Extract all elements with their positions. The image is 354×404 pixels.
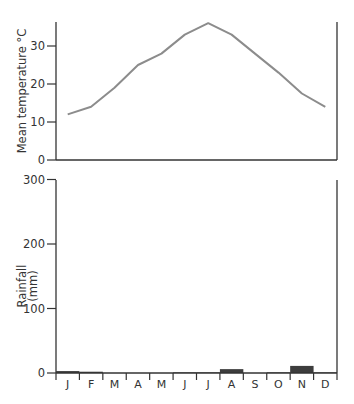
rain-tick-label: 0 bbox=[38, 366, 45, 380]
rain-tick-label: 300 bbox=[23, 173, 45, 187]
month-label: M bbox=[157, 378, 167, 391]
temp-axis-title: Mean temperature °C bbox=[15, 29, 29, 154]
rain-tick-label: 200 bbox=[23, 237, 45, 251]
temperature-chart: 0102030 Mean temperature °C bbox=[15, 22, 337, 167]
month-label: S bbox=[252, 378, 259, 391]
month-label: J bbox=[182, 378, 186, 391]
month-label: J bbox=[206, 378, 210, 391]
month-label: A bbox=[228, 378, 236, 391]
rainfall-bars bbox=[56, 366, 337, 373]
month-label: N bbox=[298, 378, 306, 391]
month-axis: JFMAMJJASOND bbox=[56, 373, 337, 391]
month-label: M bbox=[110, 378, 120, 391]
temp-tick-label: 30 bbox=[30, 39, 45, 53]
climate-chart: 0102030 Mean temperature °C 0100200300 J… bbox=[0, 0, 354, 404]
month-label: J bbox=[65, 378, 69, 391]
month-label: D bbox=[321, 378, 329, 391]
temp-tick-label: 20 bbox=[30, 77, 45, 91]
rainfall-chart: 0100200300 JFMAMJJASOND Rainfall (mm) bbox=[15, 173, 337, 392]
month-label: A bbox=[134, 378, 142, 391]
temp-tick-label: 10 bbox=[30, 115, 45, 129]
rainfall-bar bbox=[290, 366, 313, 373]
temp-y-ticks: 0102030 bbox=[30, 39, 56, 167]
temp-tick-label: 0 bbox=[38, 153, 45, 167]
rain-axis-title-line2: (mm) bbox=[26, 270, 40, 301]
temperature-line bbox=[68, 23, 326, 114]
month-label: O bbox=[274, 378, 283, 391]
month-label: F bbox=[88, 378, 94, 391]
